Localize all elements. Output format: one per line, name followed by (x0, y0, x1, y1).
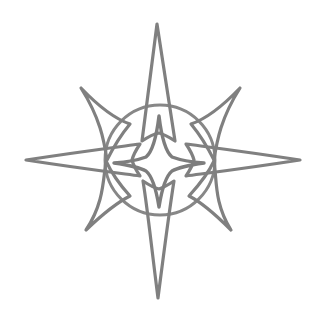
compass-rose-figure: Compass Rose Compass rose star burst lin… (0, 0, 327, 318)
compass-rose-artboard: Compass Rose Compass rose star burst lin… (0, 0, 327, 318)
cardinal-ray-west (26, 144, 140, 176)
cardinal-rays-group (26, 24, 300, 298)
cardinal-ray-east (186, 144, 300, 176)
